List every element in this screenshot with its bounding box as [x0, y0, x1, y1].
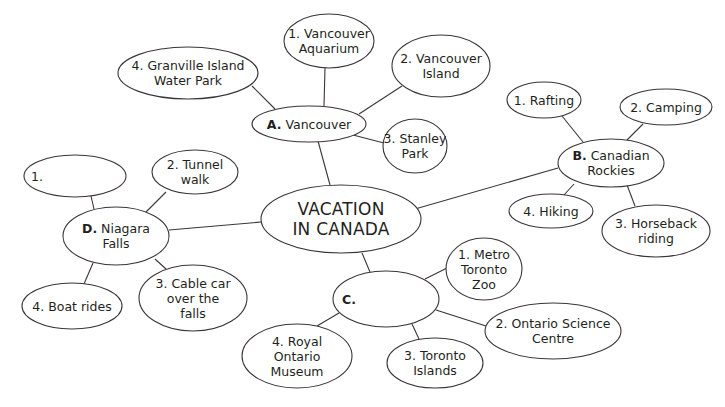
region-letter: A.: [267, 117, 282, 132]
activity-label-d-1-line-1: 1.: [31, 169, 43, 184]
activity-label-b-2-line-1: 2. Camping: [630, 100, 702, 115]
activity-label-c-2-line-1: 2. Ontario Science: [496, 316, 611, 331]
activity-label-a-2-line-1: 2. Vancouver: [400, 51, 482, 66]
activity-label-c-2-line-2: Centre: [496, 331, 611, 346]
activity-label-b-1: 1. Rafting: [514, 93, 574, 108]
activity-label-d-2-line-2: walk: [167, 172, 224, 187]
link-center-to-region-d: [169, 222, 261, 230]
region-label-b-line-2: Rockies: [572, 163, 649, 178]
activity-label-c-1: 1. MetroTorontoZoo: [458, 247, 510, 292]
activity-label-c-3-line-1: 3. Toronto: [404, 348, 466, 363]
activity-label-b-2: 2. Camping: [630, 100, 702, 115]
region-label-c-line-1: C.: [342, 292, 356, 307]
activity-label-c-2: 2. Ontario ScienceCentre: [496, 316, 611, 346]
link-region-d-activity-4: [84, 263, 93, 284]
link-region-d-activity-2: [146, 192, 166, 212]
region-label-c: C.: [342, 292, 356, 307]
link-region-b-activity-1: [562, 116, 583, 142]
activity-label-d-1: 1.: [31, 169, 43, 184]
activity-label-b-3-line-2: riding: [615, 231, 697, 246]
link-region-d-activity-3: [155, 259, 166, 269]
activity-label-a-3-line-1: 3. Stanley: [384, 131, 447, 146]
activity-label-c-1-line-2: Toronto: [458, 262, 510, 277]
region-label-d: D. NiagaraFalls: [82, 221, 150, 251]
central-topic-label: VACATION IN CANADA: [292, 199, 389, 239]
region-letter: D.: [82, 221, 97, 236]
activity-label-d-3-line-3: falls: [155, 306, 230, 321]
activity-label-a-3-line-2: Park: [384, 146, 447, 161]
activity-label-a-4: 4. Granville IslandWater Park: [132, 58, 245, 88]
activity-label-d-3: 3. Cable carover thefalls: [155, 276, 230, 321]
link-region-c-activity-3: [412, 324, 419, 339]
region-label-d-line-2: Falls: [82, 236, 150, 251]
activity-label-c-1-line-1: 1. Metro: [458, 247, 510, 262]
link-region-a-activity-3: [353, 135, 384, 143]
central-topic-line-1: VACATION: [292, 199, 389, 219]
activity-label-b-3-line-1: 3. Horseback: [615, 216, 697, 231]
activity-label-c-4-line-2: Ontario: [270, 349, 323, 364]
activity-label-c-3-line-2: Islands: [404, 363, 466, 378]
activity-label-b-4: 4. Hiking: [523, 204, 578, 219]
activity-label-d-3-line-1: 3. Cable car: [155, 276, 230, 291]
activity-label-d-4: 4. Boat rides: [32, 299, 111, 314]
activity-label-d-2-line-1: 2. Tunnel: [167, 157, 224, 172]
activity-label-d-4-line-1: 4. Boat rides: [32, 299, 111, 314]
region-label-a: A. Vancouver: [267, 117, 351, 132]
activity-label-a-1-line-2: Aquarium: [288, 41, 370, 56]
link-region-c-activity-4: [317, 313, 339, 326]
activity-label-a-1: 1. VancouverAquarium: [288, 26, 370, 56]
activity-label-d-2: 2. Tunnelwalk: [167, 157, 224, 187]
activity-label-a-2: 2. VancouverIsland: [400, 51, 482, 81]
activity-label-a-4-line-1: 4. Granville Island: [132, 58, 245, 73]
link-region-a-activity-2: [359, 86, 402, 114]
central-topic-line-2: IN CANADA: [292, 219, 389, 239]
activity-label-a-4-line-2: Water Park: [132, 73, 245, 88]
link-center-to-region-a: [318, 141, 330, 185]
link-region-a-activity-4: [252, 86, 275, 109]
activity-label-c-1-line-3: Zoo: [458, 277, 510, 292]
region-label-d-line-1: D. Niagara: [82, 221, 150, 236]
activity-label-c-3: 3. TorontoIslands: [404, 348, 466, 378]
link-center-to-region-c: [362, 253, 370, 272]
activity-label-b-3: 3. Horsebackriding: [615, 216, 697, 246]
link-region-c-activity-1: [425, 268, 447, 279]
activity-label-a-1-line-1: 1. Vancouver: [288, 26, 370, 41]
activity-label-a-2-line-2: Island: [400, 66, 482, 81]
activity-label-a-3: 3. StanleyPark: [384, 131, 447, 161]
link-region-c-activity-2: [436, 310, 486, 326]
activity-label-d-3-line-2: over the: [155, 291, 230, 306]
activity-label-b-1-line-1: 1. Rafting: [514, 93, 574, 108]
link-region-b-activity-4: [564, 184, 574, 195]
link-region-b-activity-3: [627, 185, 635, 206]
activity-label-b-4-line-1: 4. Hiking: [523, 204, 578, 219]
region-label-b: B. CanadianRockies: [572, 148, 649, 178]
link-region-b-activity-2: [627, 124, 643, 140]
region-letter: C.: [342, 292, 356, 307]
region-letter: B.: [572, 148, 586, 163]
region-label-b-line-1: B. Canadian: [572, 148, 649, 163]
activity-label-c-4-line-3: Museum: [270, 364, 323, 379]
activity-label-c-4: 4. RoyalOntarioMuseum: [270, 334, 323, 379]
activity-label-c-4-line-1: 4. Royal: [270, 334, 323, 349]
link-region-a-activity-1: [324, 68, 325, 106]
region-label-a-line-1: A. Vancouver: [267, 117, 351, 132]
link-region-d-activity-1: [91, 196, 94, 209]
